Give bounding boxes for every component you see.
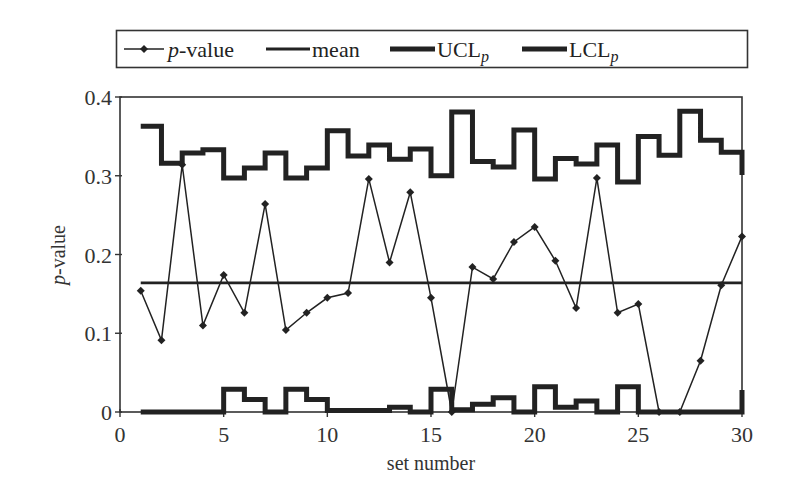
- diamond-marker-icon: [386, 258, 394, 266]
- legend-label-p-value: p-value: [166, 37, 234, 62]
- diamond-marker-icon: [572, 304, 580, 312]
- diamond-marker-icon: [427, 294, 435, 302]
- plot-frame: [120, 97, 742, 412]
- diamond-marker-icon: [220, 271, 228, 279]
- x-tick-label: 30: [731, 422, 753, 447]
- diamond-marker-icon: [365, 175, 373, 183]
- x-tick-label: 15: [420, 422, 442, 447]
- control-chart: p-value mean UCLp LCLp 00.10.20.30.4 051…: [0, 0, 791, 501]
- y-tick-label: 0: [101, 400, 112, 425]
- diamond-marker-icon: [240, 309, 248, 317]
- diamond-marker-icon: [551, 257, 559, 265]
- plot-series: [137, 111, 746, 416]
- y-tick-label: 0.2: [85, 243, 113, 268]
- diamond-marker-icon: [199, 321, 207, 329]
- diamond-marker-icon: [406, 188, 414, 196]
- x-tick-label: 10: [316, 422, 338, 447]
- diamond-marker-icon: [738, 232, 746, 240]
- diamond-marker-icon: [157, 336, 165, 344]
- diamond-marker-icon: [676, 408, 684, 416]
- diamond-marker-icon: [614, 309, 622, 317]
- diamond-marker-icon: [655, 408, 663, 416]
- p-value-line: [141, 165, 742, 412]
- x-axis-title: set number: [387, 452, 476, 474]
- y-axis: 00.10.20.30.4: [85, 85, 123, 425]
- ucl-step-line: [141, 111, 742, 182]
- diamond-marker-icon: [137, 287, 145, 295]
- y-tick-label: 0.3: [85, 164, 113, 189]
- y-tick-label: 0.1: [85, 321, 113, 346]
- x-tick-label: 0: [115, 422, 126, 447]
- diamond-marker-icon: [468, 263, 476, 271]
- diamond-marker-icon: [697, 357, 705, 365]
- x-tick-label: 20: [524, 422, 546, 447]
- y-tick-label: 0.4: [85, 85, 113, 110]
- x-axis: 051015202530: [115, 409, 754, 447]
- x-tick-label: 5: [218, 422, 229, 447]
- legend: p-value mean UCLp LCLp: [117, 31, 748, 68]
- y-axis-title: p-value: [47, 225, 70, 287]
- diamond-marker-icon: [593, 174, 601, 182]
- x-tick-label: 25: [627, 422, 649, 447]
- diamond-marker-icon: [344, 289, 352, 297]
- diamond-marker-icon: [261, 200, 269, 208]
- diamond-marker-icon: [634, 300, 642, 308]
- lcl-step-line: [141, 387, 742, 412]
- legend-label-mean: mean: [312, 37, 360, 62]
